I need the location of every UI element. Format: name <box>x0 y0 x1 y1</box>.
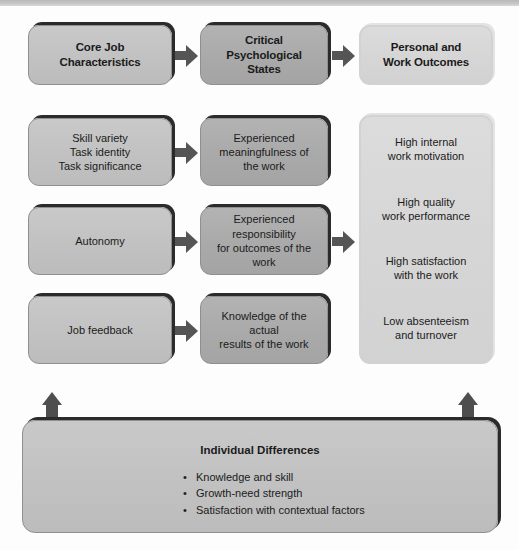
arrow-up-left-to-core <box>42 392 62 422</box>
outcome-2-line2: work performance <box>382 210 470 222</box>
psychological-state-box-2: Experienced responsibility for outcomes … <box>200 207 328 275</box>
individual-differences-title: Individual Differences <box>23 444 497 456</box>
bullet-icon: • <box>183 469 187 485</box>
state-3-line1: Knowledge of the actual <box>221 310 306 336</box>
core-characteristic-box-1: Skill variety Task identity Task signifi… <box>28 118 172 186</box>
core-characteristic-box-2: Autonomy <box>28 207 172 275</box>
outcome-item-4: Low absenteeism and turnover <box>361 314 491 343</box>
bullet-icon: • <box>183 485 187 501</box>
outcome-2-line1: High quality <box>397 196 454 208</box>
state-1-line1: Experienced <box>233 132 294 144</box>
header-core-line2: Characteristics <box>60 56 141 68</box>
header-outcomes-line1: Personal and <box>391 41 461 53</box>
outcome-item-2: High quality work performance <box>361 195 491 224</box>
diagram-canvas: Core Job Characteristics Critical Psycho… <box>0 0 519 550</box>
state-1-line2: meaningfulness of <box>219 146 308 158</box>
individual-differences-list: • Knowledge and skill • Growth-need stre… <box>23 469 497 518</box>
core-1-line3: Task significance <box>58 160 141 172</box>
header-states-line1: Critical <box>245 34 283 46</box>
arrow-up-right-to-outcomes <box>458 392 478 422</box>
core-2-line1: Autonomy <box>75 235 125 247</box>
psychological-state-box-1: Experienced meaningfulness of the work <box>200 118 328 186</box>
outcome-item-3: High satisfaction with the work <box>361 254 491 283</box>
bullet-icon: • <box>183 502 187 518</box>
header-critical-psychological-states: Critical Psychological States <box>200 25 328 85</box>
header-core-job-characteristics: Core Job Characteristics <box>28 25 172 85</box>
individual-differences-panel: Individual Differences • Knowledge and s… <box>22 420 498 533</box>
core-characteristic-box-3: Job feedback <box>28 296 172 364</box>
outcome-3-line1: High satisfaction <box>386 255 467 267</box>
state-2-line2: for outcomes of the work <box>217 242 311 268</box>
list-item: • Satisfaction with contextual factors <box>183 502 497 518</box>
individual-difference-2: Growth-need strength <box>196 487 302 499</box>
outcome-3-line2: with the work <box>394 269 458 281</box>
individual-difference-1: Knowledge and skill <box>196 471 293 483</box>
state-3-line2: results of the work <box>219 338 308 350</box>
header-core-line1: Core Job <box>76 41 125 53</box>
outcome-item-1: High internal work motivation <box>361 135 491 164</box>
psychological-state-box-3: Knowledge of the actual results of the w… <box>200 296 328 364</box>
header-outcomes-line2: Work Outcomes <box>383 56 469 68</box>
header-states-line2: Psychological <box>226 49 301 61</box>
state-2-line1: Experienced responsibility <box>232 213 296 239</box>
list-item: • Knowledge and skill <box>183 469 497 485</box>
header-personal-and-work-outcomes: Personal and Work Outcomes <box>359 25 493 85</box>
individual-difference-3: Satisfaction with contextual factors <box>196 504 365 516</box>
outcome-1-line2: work motivation <box>388 150 464 162</box>
state-1-line3: the work <box>243 160 285 172</box>
outcomes-panel: High internal work motivation High quali… <box>359 115 493 364</box>
top-rule <box>0 0 519 6</box>
outcome-1-line1: High internal <box>395 136 457 148</box>
core-1-line1: Skill variety <box>72 132 128 144</box>
outcome-4-line2: and turnover <box>395 329 457 341</box>
core-3-line1: Job feedback <box>67 324 132 336</box>
outcome-4-line1: Low absenteeism <box>383 315 469 327</box>
header-states-line3: States <box>247 63 281 75</box>
core-1-line2: Task identity <box>70 146 131 158</box>
list-item: • Growth-need strength <box>183 485 497 501</box>
